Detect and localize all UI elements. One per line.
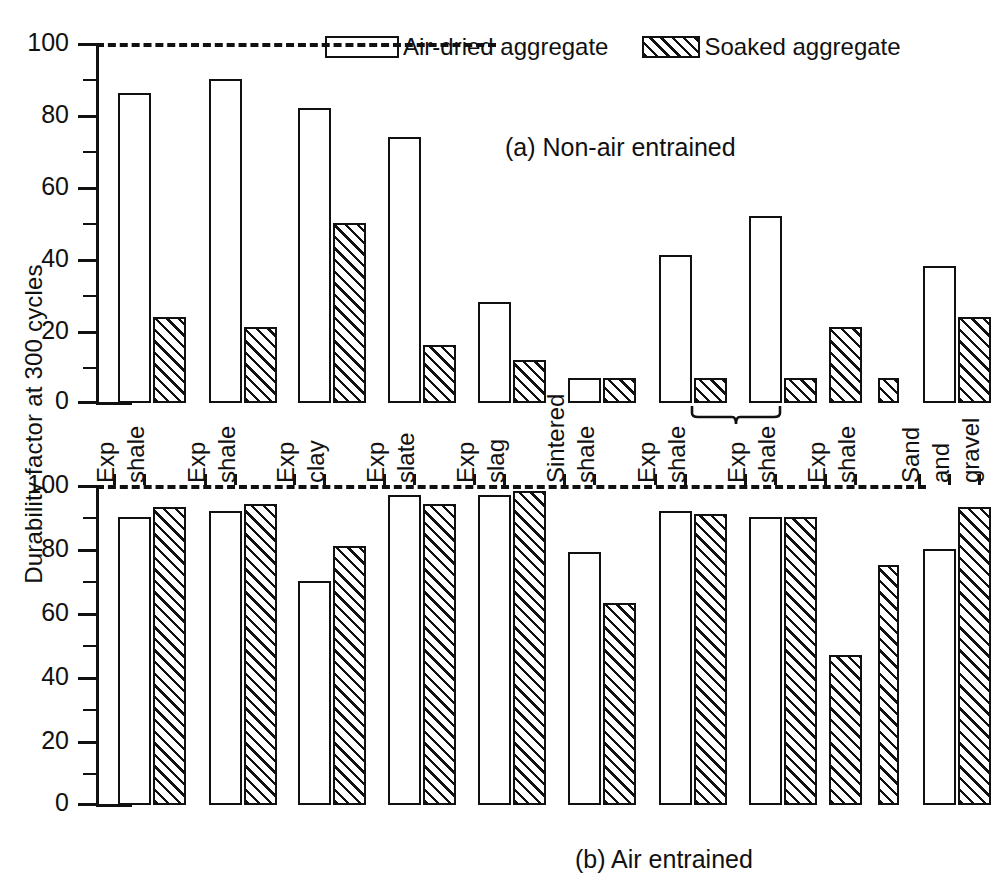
- bar-group: [388, 485, 456, 805]
- bar-air-dried: [478, 302, 511, 403]
- bar-soaked: [423, 504, 456, 805]
- tick-label-80-b: 80: [41, 536, 69, 561]
- bar-group: [209, 43, 277, 403]
- bar-air-dried: [923, 549, 956, 805]
- tick-0-b: 0: [78, 803, 99, 806]
- panel-b-caption: (b) Air entrained: [575, 845, 753, 874]
- bar-air-dried: [298, 108, 331, 403]
- bar-air-dried: [388, 495, 421, 805]
- category-label-text: Exp: [364, 442, 388, 483]
- tick-70-a: [83, 151, 99, 153]
- bar-soaked: [784, 378, 817, 403]
- bar-group: [388, 43, 456, 403]
- bar-soaked: [333, 223, 366, 403]
- bar-soaked: [333, 546, 366, 805]
- bar-soaked: [513, 491, 546, 805]
- category-label-text: shale: [665, 426, 689, 483]
- bar-soaked: [694, 378, 727, 403]
- tick-label-100-b: 100: [27, 472, 69, 497]
- tick-50-b: [83, 645, 99, 647]
- bar-air-dried: [568, 378, 601, 403]
- bar-group: [923, 485, 991, 805]
- tick-label-20-b: 20: [41, 728, 69, 753]
- bar-soaked: [244, 327, 277, 403]
- tick-label-100-a: 100: [27, 30, 69, 55]
- category-label-text: Exp: [454, 442, 478, 483]
- tick-40-b: 40: [78, 677, 99, 680]
- tick-100-b: 100: [78, 485, 99, 488]
- bar-air-dried: [659, 255, 692, 403]
- bar-air-dried: [568, 552, 601, 805]
- tick-label-40-b: 40: [41, 664, 69, 689]
- category-label-text: clay: [304, 440, 328, 483]
- category-label-text: Exp: [635, 442, 659, 483]
- bar-air-dried: [659, 511, 692, 805]
- category-label-text: Sand: [899, 427, 923, 483]
- tick-40-a: 40: [78, 259, 99, 262]
- bar-air-dried: [298, 581, 331, 805]
- category-label-text: Exp: [805, 442, 829, 483]
- bar-air-dried: [388, 137, 421, 403]
- tick-label-60-a: 60: [41, 174, 69, 199]
- bar-group: [298, 485, 366, 805]
- tick-label-0-a: 0: [55, 388, 69, 413]
- panel-b-air-entrained: 100 80 60 40 20 0: [96, 485, 926, 805]
- panel-a-caption: (a) Non-air entrained: [505, 133, 736, 162]
- bar-group: [923, 43, 991, 403]
- tick-20-a: 20: [78, 331, 99, 334]
- tick-70-b: [83, 581, 99, 583]
- category-label-text: shale: [574, 426, 598, 483]
- group-brace-icon: [690, 404, 782, 426]
- tick-label-80-a: 80: [41, 102, 69, 127]
- tick-label-60-b: 60: [41, 600, 69, 625]
- category-label-text: shale: [755, 426, 779, 483]
- category-label-text: shale: [835, 426, 859, 483]
- bar-air-dried: [749, 517, 782, 805]
- tick-30-b: [83, 709, 99, 711]
- panel-a-non-air-entrained: 100 80 60 40 20 0: [96, 43, 926, 403]
- bar-air-dried: [118, 517, 151, 805]
- tick-30-a: [83, 295, 99, 297]
- bar-air-dried: [209, 79, 242, 403]
- bar-soaked: [958, 507, 991, 805]
- bar-group: [118, 43, 186, 403]
- category-label-text: slag: [484, 439, 508, 483]
- bar-group: [659, 485, 727, 805]
- category-label-text: Sintered: [544, 394, 568, 483]
- bar-soaked: [878, 378, 899, 403]
- category-label-text: shale: [124, 426, 148, 483]
- bar-air-dried: [118, 93, 151, 403]
- bar-air-dried: [749, 216, 782, 403]
- bar-soaked: [603, 603, 636, 805]
- bar-group: [478, 43, 546, 403]
- tick-80-a: 80: [78, 115, 99, 118]
- bar-air-dried: [209, 511, 242, 805]
- tick-100-a: 100: [78, 43, 99, 46]
- bar-air-dried: [829, 327, 862, 403]
- category-label-text: shale: [215, 426, 239, 483]
- tick-90-b: [83, 517, 99, 519]
- category-label-text: and: [929, 443, 953, 483]
- tick-10-a: [83, 367, 99, 369]
- tick-60-a: 60: [78, 187, 99, 190]
- bar-air-dried: [923, 266, 956, 403]
- tick-60-b: 60: [78, 613, 99, 616]
- bar-air-dried: [478, 495, 511, 805]
- bar-soaked: [603, 378, 636, 403]
- tick-20-b: 20: [78, 741, 99, 744]
- bar-group: [749, 485, 817, 805]
- bar-group: [118, 485, 186, 805]
- bar-soaked: [244, 504, 277, 805]
- tick-label-40-a: 40: [41, 246, 69, 271]
- tick-90-a: [83, 79, 99, 81]
- tick-label-0-b: 0: [55, 790, 69, 815]
- bar-soaked: [784, 517, 817, 805]
- bar-soaked: [694, 514, 727, 805]
- bar-group: [829, 485, 897, 805]
- bar-group: [659, 43, 727, 403]
- category-label-text: Exp: [185, 442, 209, 483]
- bar-group: [749, 43, 817, 403]
- category-label-text: slate: [394, 432, 418, 483]
- category-label-text: Exp: [94, 442, 118, 483]
- bar-group: [568, 43, 636, 403]
